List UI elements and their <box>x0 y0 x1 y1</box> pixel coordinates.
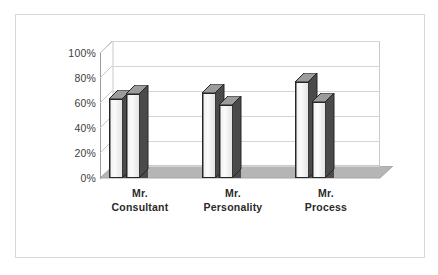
x-category-line-2: Consultant <box>95 200 185 214</box>
bar-top-mr-personality-series-2 <box>219 96 242 105</box>
bar-top-mr-consultant-series-2 <box>126 85 149 94</box>
x-category-line-1: Mr. <box>281 186 371 200</box>
bar-mr-process-series-2[interactable] <box>312 102 326 178</box>
bar-group-mr-personality <box>202 53 262 178</box>
gridline-100 <box>112 41 380 42</box>
bar-mr-consultant-series-1[interactable] <box>109 99 123 178</box>
x-category-line-1: Mr. <box>95 186 185 200</box>
x-category-line-1: Mr. <box>188 186 278 200</box>
x-category-label-mr-personality: Mr. Personality <box>188 186 278 214</box>
bar-mr-consultant-series-2[interactable] <box>126 94 140 178</box>
y-tick-label-80: 80% <box>74 72 96 84</box>
y-tick-label-20: 20% <box>74 147 96 159</box>
x-category-label-mr-process: Mr. Process <box>281 186 371 214</box>
bar-side-mr-consultant-series-2 <box>139 85 148 178</box>
bar-side-mr-process-series-2 <box>325 93 334 178</box>
y-tick-label-60: 60% <box>74 97 96 109</box>
screenshot-canvas: 100% 80% 60% 40% 20% 0% <box>0 0 438 275</box>
bar-group-mr-process <box>295 53 355 178</box>
bar-group-mr-consultant <box>109 53 169 178</box>
y-tick-label-0: 0% <box>80 172 96 184</box>
bar-top-mr-process-series-2 <box>312 93 335 102</box>
bar-top-mr-process-series-1 <box>295 73 318 82</box>
y-tick-label-100: 100% <box>68 47 96 59</box>
y-tick-label-40: 40% <box>74 122 96 134</box>
x-category-line-2: Personality <box>188 200 278 214</box>
bar-mr-process-series-1[interactable] <box>295 82 309 178</box>
x-category-label-mr-consultant: Mr. Consultant <box>95 186 185 214</box>
bar-mr-personality-series-1[interactable] <box>202 93 216 178</box>
bar-top-mr-personality-series-1 <box>202 84 225 93</box>
bar-side-mr-personality-series-2 <box>232 96 241 178</box>
bar-mr-personality-series-2[interactable] <box>219 105 233 178</box>
bar-chart: 100% 80% 60% 40% 20% 0% <box>0 0 438 275</box>
x-category-line-2: Process <box>281 200 371 214</box>
